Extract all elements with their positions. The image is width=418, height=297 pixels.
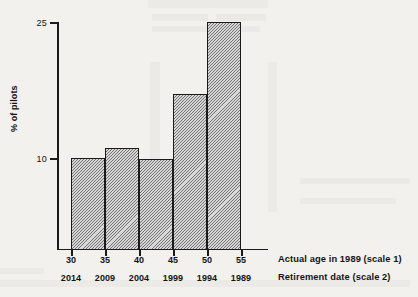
y-tick-25: 25 — [50, 22, 57, 24]
x-label-scale2-1994: 1994 — [197, 273, 217, 283]
chart-figure: % of pilots 25 10 30 35 40 45 50 55 Act — [0, 0, 418, 297]
plot-area: 25 10 — [57, 22, 262, 250]
x-label-scale1-40: 40 — [134, 255, 144, 265]
bar-35-40 — [105, 148, 139, 250]
y-tick-label-10: 10 — [37, 154, 47, 164]
x-label-scale1-45: 45 — [168, 255, 178, 265]
y-tick-10: 10 — [50, 158, 57, 160]
y-axis-title: % of pilots — [9, 85, 19, 132]
x-axis-caption-scale2: Retirement date (scale 2) — [278, 272, 391, 282]
x-label-scale1-30: 30 — [66, 255, 76, 265]
x-axis-caption-scale1: Actual age in 1989 (scale 1) — [278, 254, 402, 264]
x-label-scale1-35: 35 — [100, 255, 110, 265]
bar-50-55 — [207, 22, 241, 250]
y-tick-label-25: 25 — [37, 18, 47, 28]
bar-40-45 — [139, 159, 173, 250]
x-label-scale2-2009: 2009 — [95, 273, 115, 283]
bar-30-35 — [71, 158, 105, 250]
x-label-scale2-2004: 2004 — [129, 273, 149, 283]
x-label-scale2-2014: 2014 — [61, 273, 81, 283]
bar-45-50 — [173, 94, 207, 250]
x-label-scale1-50: 50 — [202, 255, 212, 265]
x-label-scale2-1989: 1989 — [231, 273, 251, 283]
x-label-scale2-1999: 1999 — [163, 273, 183, 283]
x-label-scale1-55: 55 — [236, 255, 246, 265]
y-axis-line — [57, 22, 59, 250]
